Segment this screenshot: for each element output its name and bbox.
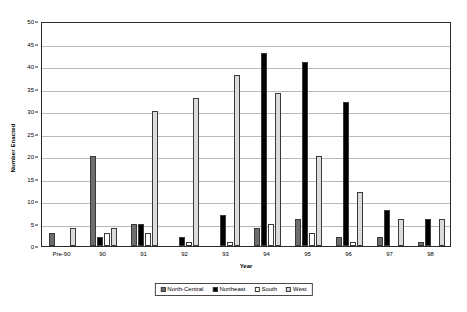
x-axis-tick-label: 96 [345, 250, 352, 258]
bar-north-central-97 [377, 237, 384, 246]
y-axis-tick-mark [35, 202, 38, 203]
y-axis-tick-mark [35, 44, 38, 45]
x-axis-tick-label: 95 [304, 250, 311, 258]
y-axis-tick-mark [35, 22, 38, 23]
y-axis-tick-mark [35, 157, 38, 158]
bar-west-96 [357, 192, 364, 246]
bar-group [377, 23, 405, 246]
bar-west-97 [398, 219, 405, 246]
legend-item-west: West [286, 286, 307, 293]
y-axis-tick-label: 50 [27, 19, 34, 25]
bar-south-92 [186, 242, 193, 247]
bar-group [295, 23, 323, 246]
bar-west-90 [111, 228, 118, 246]
bar-northeast-95 [302, 62, 309, 247]
y-axis-tick-label: 5 [31, 222, 34, 228]
x-axis-tick-labels: Pre-90909192939495969798 [41, 250, 451, 262]
bar-south-95 [309, 233, 316, 247]
x-axis-tick-label: 90 [99, 250, 106, 258]
y-axis-tick-mark [35, 247, 38, 248]
y-axis-tick-mark [35, 134, 38, 135]
y-axis-tick-label: 30 [27, 109, 34, 115]
bar-group [336, 23, 364, 246]
bar-northeast-90 [97, 237, 104, 246]
y-axis-tick-label: 35 [27, 87, 34, 93]
bar-chart: Number Enacted 05101520253035404550 Pre-… [0, 0, 467, 312]
y-axis-tick-mark [35, 67, 38, 68]
bar-west-91 [152, 111, 159, 246]
bar-west-92 [193, 98, 200, 247]
x-axis-tick-label: 91 [140, 250, 147, 258]
bar-south-91 [145, 233, 152, 247]
legend-swatch-icon [160, 287, 165, 292]
bar-south-93 [227, 242, 234, 247]
bar-west-94 [275, 93, 282, 246]
x-axis-title: Year [41, 263, 451, 269]
y-axis-tick-label: 15 [27, 177, 34, 183]
x-axis-tick-label: 98 [427, 250, 434, 258]
x-axis-tick-label: 94 [263, 250, 270, 258]
bar-northeast-92 [179, 237, 186, 246]
bar-northeast-93 [220, 215, 227, 247]
y-axis-tick-labels: 05101520253035404550 [0, 22, 38, 247]
legend-label: West [293, 286, 307, 293]
bar-north-central-98 [418, 242, 425, 247]
x-axis-tick-label: 97 [386, 250, 393, 258]
bar-west-95 [316, 156, 323, 246]
bar-group [49, 23, 77, 246]
bar-northeast-96 [343, 102, 350, 246]
legend-swatch-icon [212, 287, 217, 292]
legend-swatch-icon [286, 287, 291, 292]
y-axis-tick-mark [35, 179, 38, 180]
legend-label: Northeast [219, 286, 245, 293]
x-axis-tick-label: 93 [222, 250, 229, 258]
legend-label: North-Central [167, 286, 203, 293]
y-axis-tick-label: 20 [27, 154, 34, 160]
bar-south-90 [104, 233, 111, 247]
chart-legend: North-CentralNortheastSouthWest [154, 283, 312, 296]
bar-north-central-96 [336, 237, 343, 246]
bar-north-central-90 [90, 156, 97, 246]
bar-northeast-91 [138, 224, 145, 247]
bar-north-central-95 [295, 219, 302, 246]
bar-south-96 [350, 242, 357, 247]
bar-group [131, 23, 159, 246]
bar-west-pre-90 [70, 228, 77, 246]
bar-north-central-91 [131, 224, 138, 247]
y-axis-tick-mark [35, 224, 38, 225]
bars-layer [42, 23, 450, 246]
legend-item-northeast: Northeast [212, 286, 245, 293]
bar-north-central-94 [254, 228, 261, 246]
plot-area [41, 22, 451, 247]
bar-south-94 [268, 224, 275, 247]
bar-group [172, 23, 200, 246]
bar-north-central-pre-90 [49, 233, 56, 247]
x-axis-tick-label: Pre-90 [52, 250, 70, 258]
y-axis-tick-label: 40 [27, 64, 34, 70]
legend-swatch-icon [254, 287, 259, 292]
y-axis-tick-label: 25 [27, 132, 34, 138]
bar-northeast-98 [425, 219, 432, 246]
y-axis-tick-mark [35, 112, 38, 113]
legend-item-north-central: North-Central [160, 286, 203, 293]
bar-west-93 [234, 75, 241, 246]
bar-group [254, 23, 282, 246]
legend-item-south: South [254, 286, 277, 293]
bar-west-98 [439, 219, 446, 246]
bar-northeast-97 [384, 210, 391, 246]
bar-group [90, 23, 118, 246]
y-axis-tick-mark [35, 89, 38, 90]
y-axis-tick-label: 45 [27, 42, 34, 48]
bar-group [418, 23, 446, 246]
y-axis-tick-label: 10 [27, 199, 34, 205]
bar-northeast-94 [261, 53, 268, 247]
x-axis-tick-label: 92 [181, 250, 188, 258]
bar-group [213, 23, 241, 246]
legend-label: South [261, 286, 277, 293]
y-axis-tick-label: 0 [31, 244, 34, 250]
